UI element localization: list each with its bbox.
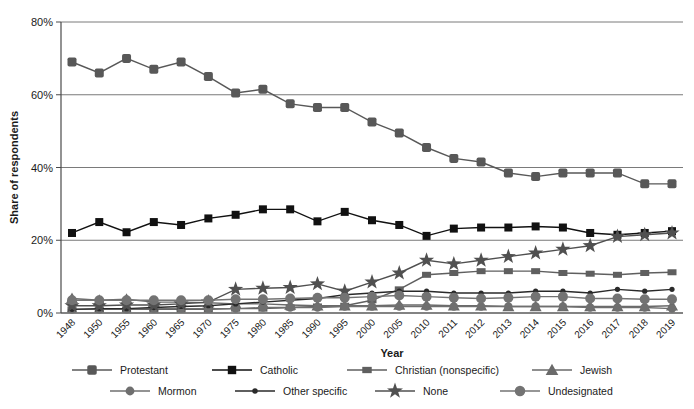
marker-square-large bbox=[449, 154, 458, 163]
marker-star bbox=[446, 256, 461, 270]
marker-circle bbox=[126, 387, 135, 396]
marker-square-black bbox=[368, 216, 376, 224]
legend-label: None bbox=[423, 385, 448, 397]
marker-star bbox=[528, 245, 543, 259]
legend-row-1: ProtestantCatholicChristian (nonspecific… bbox=[72, 364, 612, 376]
marker-square-small bbox=[504, 268, 513, 274]
marker-circle bbox=[368, 302, 376, 310]
marker-circle bbox=[422, 302, 430, 310]
marker-circle-large bbox=[531, 292, 541, 302]
marker-square-black bbox=[95, 218, 103, 226]
x-tick-label-2018: 2018 bbox=[627, 316, 651, 340]
marker-square-large bbox=[95, 68, 104, 77]
marker-square-black bbox=[586, 229, 594, 237]
marker-circle-large bbox=[612, 293, 622, 303]
marker-star bbox=[664, 225, 679, 239]
marker-circle bbox=[586, 303, 594, 311]
marker-circle-large bbox=[285, 293, 295, 303]
legend-item-other-specific[interactable]: Other specific bbox=[235, 385, 347, 397]
series-catholic bbox=[68, 205, 676, 240]
marker-dot bbox=[615, 287, 620, 292]
marker-square-black bbox=[259, 205, 267, 213]
marker-circle bbox=[313, 303, 321, 311]
legend-item-jewish[interactable]: Jewish bbox=[532, 364, 612, 376]
marker-square-large bbox=[313, 103, 322, 112]
marker-star bbox=[473, 252, 488, 266]
marker-star bbox=[419, 252, 434, 266]
legend-label: Other specific bbox=[283, 385, 347, 397]
marker-square-black bbox=[504, 224, 512, 232]
marker-star bbox=[283, 280, 298, 294]
marker-square-small bbox=[531, 268, 540, 274]
marker-square-large bbox=[177, 58, 186, 67]
marker-square-black bbox=[123, 228, 131, 236]
legend-label: Jewish bbox=[580, 364, 612, 376]
marker-square-large bbox=[87, 365, 96, 374]
marker-circle bbox=[450, 302, 458, 310]
marker-square-black bbox=[532, 222, 540, 230]
marker-dot bbox=[252, 388, 257, 393]
marker-circle bbox=[395, 302, 403, 310]
marker-circle bbox=[286, 303, 294, 311]
marker-square-large bbox=[586, 168, 595, 177]
x-tick-label-2000: 2000 bbox=[354, 316, 378, 340]
marker-square-large bbox=[286, 99, 295, 108]
marker-square-large bbox=[204, 72, 213, 81]
legend-label: Undesignated bbox=[548, 385, 613, 397]
marker-square-large bbox=[68, 58, 77, 67]
y-axis-title: Share of respondents bbox=[8, 111, 20, 224]
marker-square-black bbox=[477, 224, 485, 232]
series-protestant bbox=[68, 54, 677, 188]
marker-square-small bbox=[449, 270, 458, 276]
marker-square-small bbox=[586, 271, 595, 277]
x-tick-label-2015: 2015 bbox=[545, 316, 569, 340]
marker-circle-large bbox=[503, 293, 513, 303]
marker-circle bbox=[341, 302, 349, 310]
marker-square-large bbox=[231, 88, 240, 97]
marker-circle-large bbox=[312, 293, 322, 303]
legend-item-none[interactable]: None bbox=[375, 383, 448, 398]
marker-circle-large bbox=[422, 292, 432, 302]
marker-circle-large bbox=[122, 295, 132, 305]
marker-star bbox=[255, 280, 270, 294]
marker-square-large bbox=[422, 143, 431, 152]
x-tick-label-1995: 1995 bbox=[327, 316, 351, 340]
marker-square-black bbox=[204, 214, 212, 222]
marker-square-small bbox=[422, 272, 431, 278]
marker-circle-large bbox=[585, 293, 595, 303]
legend-item-protestant[interactable]: Protestant bbox=[72, 364, 168, 376]
legend-label: Protestant bbox=[120, 364, 168, 376]
marker-circle-large bbox=[515, 386, 526, 397]
marker-square-black bbox=[559, 224, 567, 232]
chart-canvas: 0%20%40%60%80%Share of respondents194819… bbox=[0, 0, 694, 409]
marker-circle-large bbox=[67, 295, 77, 305]
marker-square-large bbox=[258, 85, 267, 94]
marker-square-small bbox=[558, 270, 567, 276]
marker-circle bbox=[559, 302, 567, 310]
y-tick-label-40%: 40% bbox=[31, 162, 53, 174]
marker-square-large bbox=[613, 168, 622, 177]
marker-circle bbox=[477, 302, 485, 310]
marker-square-small bbox=[362, 367, 371, 373]
marker-square-large bbox=[504, 168, 513, 177]
legend-label: Christian (nonspecific) bbox=[395, 364, 499, 376]
legend-label: Catholic bbox=[260, 364, 298, 376]
marker-square-black bbox=[423, 232, 431, 240]
legend-item-catholic[interactable]: Catholic bbox=[212, 364, 298, 376]
marker-circle-large bbox=[667, 294, 677, 304]
legend-item-undesignated[interactable]: Undesignated bbox=[500, 385, 613, 397]
marker-star bbox=[610, 229, 625, 243]
marker-circle-large bbox=[367, 292, 377, 302]
y-tick-label-0%: 0% bbox=[37, 307, 53, 319]
marker-square-black bbox=[341, 208, 349, 216]
x-tick-label-1985: 1985 bbox=[272, 316, 296, 340]
legend-item-mormon[interactable]: Mormon bbox=[110, 385, 197, 397]
marker-square-black bbox=[450, 225, 458, 233]
marker-square-black bbox=[68, 229, 76, 237]
marker-square-large bbox=[558, 168, 567, 177]
marker-square-black bbox=[150, 218, 158, 226]
x-tick-label-1960: 1960 bbox=[136, 316, 160, 340]
marker-circle bbox=[668, 304, 676, 312]
marker-square-black bbox=[313, 217, 321, 225]
legend-item-christian-nonspecific[interactable]: Christian (nonspecific) bbox=[347, 364, 499, 376]
